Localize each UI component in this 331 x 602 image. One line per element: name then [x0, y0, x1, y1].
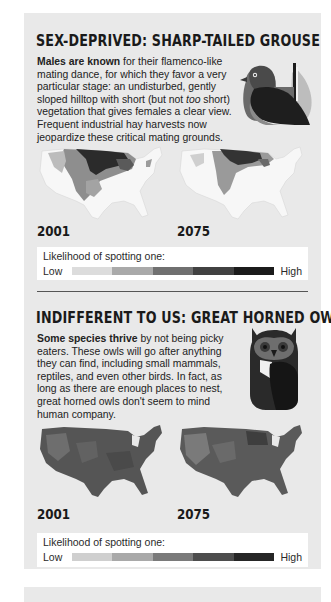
- legend-swatch: [153, 553, 193, 561]
- legend-high-label: High: [280, 265, 302, 277]
- body-lead: Males are known: [37, 56, 120, 67]
- owl-icon: [246, 326, 302, 412]
- map-grouse-2001: [36, 145, 171, 223]
- legend-swatch: [112, 267, 152, 275]
- section-sharp-tailed-grouse: SEX-DEPRIVED: SHARP-TAILED GROUSE Males …: [24, 13, 321, 296]
- legend-swatch: [193, 267, 233, 275]
- legend-high-label: High: [280, 551, 302, 563]
- map-grouse-2075: [176, 145, 311, 223]
- legend-swatch: [112, 553, 152, 561]
- legend-swatch: [72, 267, 112, 275]
- section-body: Some species thrive by not being picky e…: [37, 333, 237, 421]
- year-label: 2001: [37, 506, 70, 522]
- legend-likelihood: Likelihood of spotting one: Low High: [37, 247, 308, 280]
- section-title: INDIFFERENT TO US: GREAT HORNED OWL: [36, 309, 331, 327]
- section-great-horned-owl: INDIFFERENT TO US: GREAT HORNED OWL Some…: [24, 296, 321, 569]
- next-panel-edge: [24, 587, 321, 602]
- map-owl-2001: [36, 423, 171, 503]
- legend-swatch: [72, 553, 112, 561]
- legend-title: Likelihood of spotting one:: [43, 250, 165, 262]
- year-label: 2075: [177, 506, 210, 522]
- section-divider: [37, 291, 308, 292]
- legend-swatch: [234, 267, 274, 275]
- legend-swatch: [193, 553, 233, 561]
- grouse-icon: [236, 59, 316, 133]
- legend-color-scale: [72, 267, 274, 275]
- legend-low-label: Low: [43, 551, 62, 563]
- legend-likelihood: Likelihood of spotting one: Low High: [37, 533, 308, 567]
- legend-swatch: [234, 553, 274, 561]
- legend-title: Likelihood of spotting one:: [43, 536, 165, 548]
- legend-swatch: [153, 267, 193, 275]
- map-owl-2075: [176, 423, 311, 503]
- year-label: 2075: [177, 223, 210, 239]
- infographic-panel: SEX-DEPRIVED: SHARP-TAILED GROUSE Males …: [24, 13, 321, 569]
- year-label: 2001: [37, 223, 70, 239]
- legend-low-label: Low: [43, 265, 62, 277]
- legend-color-scale: [72, 553, 274, 561]
- section-title: SEX-DEPRIVED: SHARP-TAILED GROUSE: [36, 32, 320, 50]
- body-lead: Some species thrive: [37, 333, 138, 344]
- section-body: Males are known for their flamenco-like …: [37, 56, 242, 144]
